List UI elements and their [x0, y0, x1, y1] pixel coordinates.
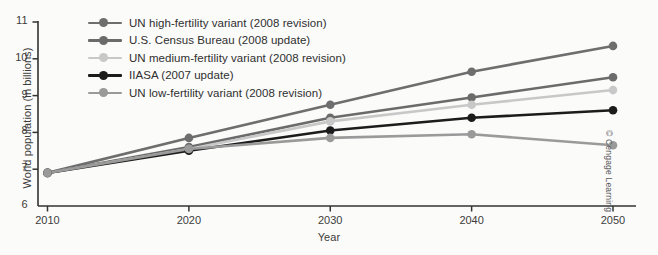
legend-item[interactable]: IIASA (2007 update) [88, 67, 346, 85]
data-point-2-3 [467, 101, 476, 110]
legend-label: UN low-fertility variant (2008 revision) [129, 87, 322, 99]
data-point-1-4 [609, 73, 618, 82]
data-point-3-3 [467, 113, 476, 122]
y-tick-label: 9 [4, 88, 28, 100]
data-point-2-2 [326, 117, 335, 126]
legend-dot [99, 71, 108, 80]
x-tick-label: 2020 [164, 214, 214, 226]
data-point-3-4 [609, 106, 618, 115]
legend-dot [99, 88, 108, 97]
x-tick-label: 2030 [305, 214, 355, 226]
legend-item[interactable]: UN low-fertility variant (2008 revision) [88, 84, 346, 102]
data-point-2-4 [609, 86, 618, 95]
data-point-4-2 [326, 134, 335, 143]
data-point-4-0 [43, 169, 52, 178]
y-tick-label: 7 [4, 161, 28, 173]
legend-marker-icon [88, 87, 122, 99]
x-axis-title: Year [0, 231, 658, 243]
x-tick-label: 2040 [447, 214, 497, 226]
legend-label: IIASA (2007 update) [129, 69, 234, 81]
copyright-notice: © Cengage Learning [604, 130, 614, 240]
data-point-4-1 [185, 145, 194, 154]
legend-marker-icon [88, 52, 122, 64]
data-point-0-4 [609, 42, 618, 51]
data-point-0-1 [185, 134, 194, 143]
legend-label: UN high-fertility variant (2008 revision… [129, 17, 327, 29]
y-tick-label: 11 [4, 14, 28, 26]
data-point-4-3 [467, 130, 476, 139]
legend-dot [99, 36, 108, 45]
data-point-0-2 [326, 101, 335, 110]
legend-marker-icon [88, 69, 122, 81]
y-tick-label: 8 [4, 124, 28, 136]
legend-dot [99, 18, 108, 27]
data-point-3-2 [326, 126, 335, 135]
legend-marker-icon [88, 34, 122, 46]
chart-legend: UN high-fertility variant (2008 revision… [88, 14, 346, 102]
population-projection-chart: World population (in billions) Year 6789… [0, 0, 658, 255]
x-tick-label: 2010 [23, 214, 73, 226]
data-point-1-3 [467, 93, 476, 102]
legend-label: UN medium-fertility variant (2008 revisi… [129, 52, 346, 64]
legend-dot [99, 53, 108, 62]
data-point-0-3 [467, 67, 476, 76]
legend-marker-icon [88, 17, 122, 29]
legend-item[interactable]: UN high-fertility variant (2008 revision… [88, 14, 346, 32]
legend-label: U.S. Census Bureau (2008 update) [129, 34, 310, 46]
legend-item[interactable]: U.S. Census Bureau (2008 update) [88, 32, 346, 50]
legend-item[interactable]: UN medium-fertility variant (2008 revisi… [88, 49, 346, 67]
y-tick-label: 6 [4, 198, 28, 210]
y-tick-label: 10 [4, 51, 28, 63]
